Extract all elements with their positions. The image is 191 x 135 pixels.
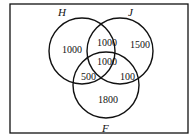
venn-diagram: H J F 1000 1500 1000 1000 500 100 1800: [0, 0, 191, 135]
region-f-only: 1800: [98, 94, 118, 105]
region-h-f: 500: [81, 71, 96, 82]
region-j-only: 1500: [130, 39, 150, 50]
region-h-only: 1000: [62, 44, 82, 55]
set-label-h: H: [57, 6, 67, 18]
set-label-f: F: [101, 122, 109, 134]
region-h-j: 1000: [97, 37, 117, 48]
region-h-j-f: 1000: [97, 56, 117, 67]
region-j-f: 100: [120, 71, 135, 82]
